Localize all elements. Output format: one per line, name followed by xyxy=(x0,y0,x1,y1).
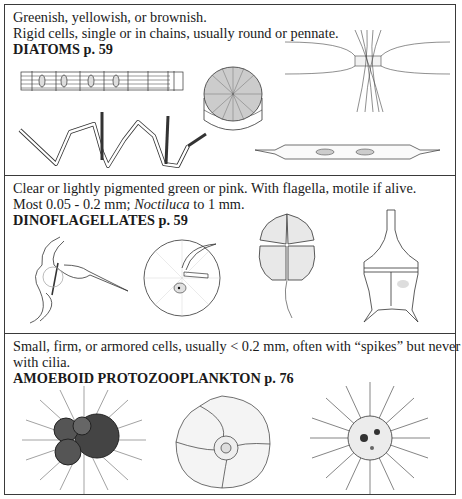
radiolarian-illustration xyxy=(310,382,430,494)
section-title: DINOFLAGELLATES p. 59 xyxy=(13,213,188,229)
section-divider xyxy=(4,175,456,176)
chaetoceros-chain-illustration xyxy=(285,30,450,112)
description-line: Small, firm, or armored cells, usually <… xyxy=(13,339,460,355)
description-line: Greenish, yellowish, or brownish. xyxy=(13,10,207,26)
globigerina-foraminifera-illustration xyxy=(22,386,146,494)
dinophysis-armored-illustration xyxy=(252,210,322,320)
description-line: Clear or lightly pigmented green or pink… xyxy=(13,181,416,197)
peridinium-spined-illustration xyxy=(356,210,426,326)
section-divider xyxy=(4,333,456,334)
description-line: with cilia. xyxy=(13,355,70,371)
section-title: DIATOMS p. 59 xyxy=(13,42,113,58)
centric-diatom-disc-illustration xyxy=(200,64,266,140)
ceratium-dinoflagellate-illustration xyxy=(20,235,130,325)
noctiluca-illustration xyxy=(140,236,224,320)
section-title: AMOEBOID PROTOZOOPLANKTON p. 76 xyxy=(13,371,294,387)
diatom-chain-straight-illustration xyxy=(20,68,185,94)
coiled-foraminifera-illustration xyxy=(170,392,274,492)
description-line: Most 0.05 - 0.2 mm; Noctiluca to 1 mm. xyxy=(13,197,245,213)
pennate-diatom-illustration xyxy=(255,140,440,164)
diatom-chain-zigzag-illustration xyxy=(18,110,198,170)
